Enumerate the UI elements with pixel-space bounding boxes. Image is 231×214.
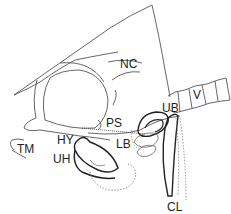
neurocranium bbox=[14, 5, 170, 140]
label-ub: UB bbox=[162, 101, 179, 115]
orbit bbox=[43, 70, 108, 130]
label-tm: TM bbox=[17, 142, 34, 156]
label-hy: HY bbox=[57, 133, 74, 147]
cleithrum bbox=[163, 114, 186, 200]
anatomical-diagram: NC V UB PS LB HY UH TM CL bbox=[0, 0, 231, 214]
label-cl: CL bbox=[167, 200, 183, 214]
label-nc: NC bbox=[120, 57, 138, 71]
label-uh: UH bbox=[53, 152, 70, 166]
label-lb: LB bbox=[116, 137, 131, 151]
label-v: V bbox=[193, 88, 201, 102]
label-ps: PS bbox=[106, 116, 122, 130]
